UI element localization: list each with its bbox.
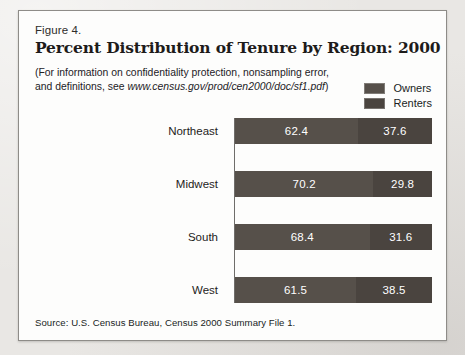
figure-note-tail: )	[325, 81, 328, 92]
chart-plot-area: Northeast62.437.6Midwest70.229.8South68.…	[35, 118, 432, 303]
legend-swatch-renters	[364, 98, 385, 109]
chart-row-label-midwest: Midwest	[35, 178, 226, 190]
chart-bar-midwest: 70.229.8	[235, 171, 432, 197]
chart-bar-south: 68.431.6	[235, 224, 432, 250]
figure-note: (For information on confidentiality prot…	[35, 66, 335, 95]
chart-row-label-northeast: Northeast	[35, 125, 226, 137]
legend-label-renters: Renters	[393, 98, 432, 109]
chart-segment-owners-midwest: 70.2	[235, 171, 373, 197]
chart-row-label-west: West	[35, 284, 226, 296]
chart-row-west: West61.538.5	[35, 277, 432, 303]
figure-source: Source: U.S. Census Bureau, Census 2000 …	[35, 317, 295, 328]
chart-segment-renters-west: 38.5	[356, 277, 432, 303]
figure-number: Figure 4.	[35, 24, 432, 37]
figure-panel: Figure 4. Percent Distribution of Tenure…	[18, 10, 447, 341]
legend-swatch-owners	[364, 83, 385, 94]
chart-segment-owners-northeast: 62.4	[235, 118, 358, 144]
chart-row-south: South68.431.6	[35, 224, 432, 250]
figure-title: Percent Distribution of Tenure by Region…	[35, 39, 432, 58]
chart-legend: Owners Renters	[364, 83, 432, 109]
chart-segment-owners-west: 61.5	[235, 277, 356, 303]
chart-bar-west: 61.538.5	[235, 277, 432, 303]
chart-row-northeast: Northeast62.437.6	[35, 118, 432, 144]
chart-segment-owners-south: 68.4	[235, 224, 370, 250]
figure-inner: Figure 4. Percent Distribution of Tenure…	[19, 11, 446, 340]
chart-bar-northeast: 62.437.6	[235, 118, 432, 144]
chart-segment-renters-midwest: 29.8	[373, 171, 432, 197]
chart-bar-rows: Northeast62.437.6Midwest70.229.8South68.…	[35, 118, 432, 303]
legend-item-owners: Owners	[364, 83, 432, 94]
legend-item-renters: Renters	[364, 98, 432, 109]
chart-row-label-south: South	[35, 231, 226, 243]
chart-segment-renters-south: 31.6	[370, 224, 432, 250]
chart-segment-renters-northeast: 37.6	[358, 118, 432, 144]
figure-note-url: www.census.gov/prod/cen2000/doc/sf1.pdf	[127, 81, 325, 92]
legend-label-owners: Owners	[393, 83, 431, 94]
chart-row-midwest: Midwest70.229.8	[35, 171, 432, 197]
